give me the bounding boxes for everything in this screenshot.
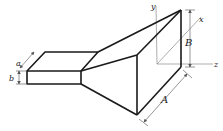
z-axis-label: z	[213, 60, 219, 69]
waveguide-front-face	[27, 71, 81, 84]
x-axis-label: x	[199, 15, 204, 24]
horn-top-front-edge	[81, 55, 137, 71]
dimension-B: B	[184, 10, 195, 67]
dimension-b: b	[9, 71, 26, 84]
dimension-b-label: b	[9, 74, 14, 83]
waveguide	[27, 52, 98, 84]
horn-top-back-edge	[98, 10, 181, 52]
dimension-a-label: a	[16, 59, 21, 68]
horn-antenna-diagram: y z x a b B A	[0, 0, 223, 131]
aperture-bottom-edge	[137, 67, 181, 115]
y-axis-label: y	[150, 2, 156, 11]
horn-upper-diagonal	[137, 10, 181, 55]
dimension-A-label: A	[160, 94, 168, 105]
x-axis	[157, 17, 201, 64]
dimension-B-label: B	[184, 37, 192, 48]
waveguide-top-face	[27, 52, 98, 71]
dimension-A: A	[139, 70, 192, 126]
coordinate-axes: y z x	[150, 2, 219, 69]
horn-bottom-edge	[81, 84, 137, 115]
